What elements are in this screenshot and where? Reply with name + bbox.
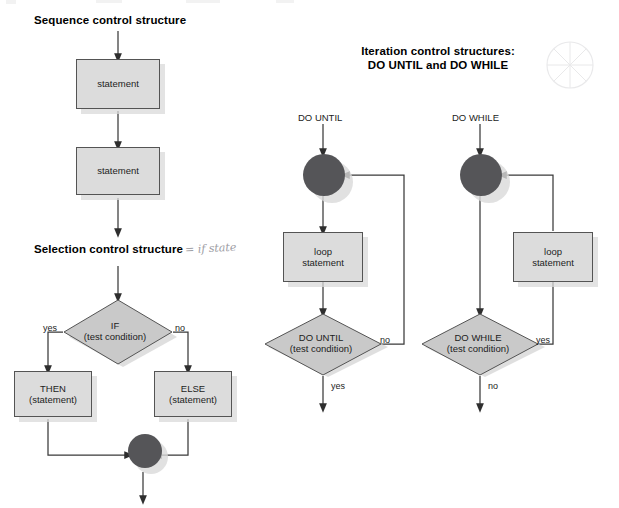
do-while-yes-label: yes xyxy=(536,335,550,345)
statement-box-2-label: statement xyxy=(97,165,139,176)
iteration-heading-line1: Iteration control structures: xyxy=(353,45,523,57)
do-while-loop-box: loop statement xyxy=(513,232,593,282)
selection-merge-circle xyxy=(128,434,162,468)
then-box-line2: (statement) xyxy=(29,394,77,405)
then-box-line1: THEN xyxy=(40,383,66,394)
do-until-junction-circle xyxy=(303,154,345,196)
statement-box-1-label: statement xyxy=(97,78,139,89)
do-until-entry-label: DO UNTIL xyxy=(298,112,342,123)
do-while-no-label: no xyxy=(488,381,498,391)
do-until-decision-diamond: DO UNTIL (test condition) xyxy=(262,313,388,381)
do-while-loop-box-line2: statement xyxy=(532,257,574,268)
do-while-junction-circle xyxy=(460,154,502,196)
else-box: ELSE (statement) xyxy=(154,371,232,417)
do-until-loop-box-line1: loop xyxy=(314,246,332,257)
do-until-loop-box-line2: statement xyxy=(302,257,344,268)
if-no-label: no xyxy=(175,323,185,333)
do-while-entry-label: DO WHILE xyxy=(452,112,499,123)
if-yes-label: yes xyxy=(43,323,57,333)
else-box-line2: (statement) xyxy=(169,394,217,405)
do-until-loop-box: loop statement xyxy=(283,232,363,282)
do-while-loop-box-line1: loop xyxy=(544,246,562,257)
sequence-statement-box-1: statement xyxy=(76,59,160,109)
else-box-line1: ELSE xyxy=(181,383,205,394)
then-box: THEN (statement) xyxy=(14,371,92,417)
sequence-heading: Sequence control structure xyxy=(34,14,186,26)
iteration-heading-line2: DO UNTIL and DO WHILE xyxy=(353,59,523,71)
handwritten-annotation: = if state xyxy=(185,241,237,257)
do-until-no-label: no xyxy=(380,335,390,345)
selection-heading: Selection control structure xyxy=(34,243,183,255)
do-while-decision-diamond: DO WHILE (test condition) xyxy=(419,313,545,381)
sequence-statement-box-2: statement xyxy=(76,147,160,195)
do-until-yes-label: yes xyxy=(331,381,345,391)
if-decision-diamond: IF (test condition) xyxy=(61,299,177,367)
